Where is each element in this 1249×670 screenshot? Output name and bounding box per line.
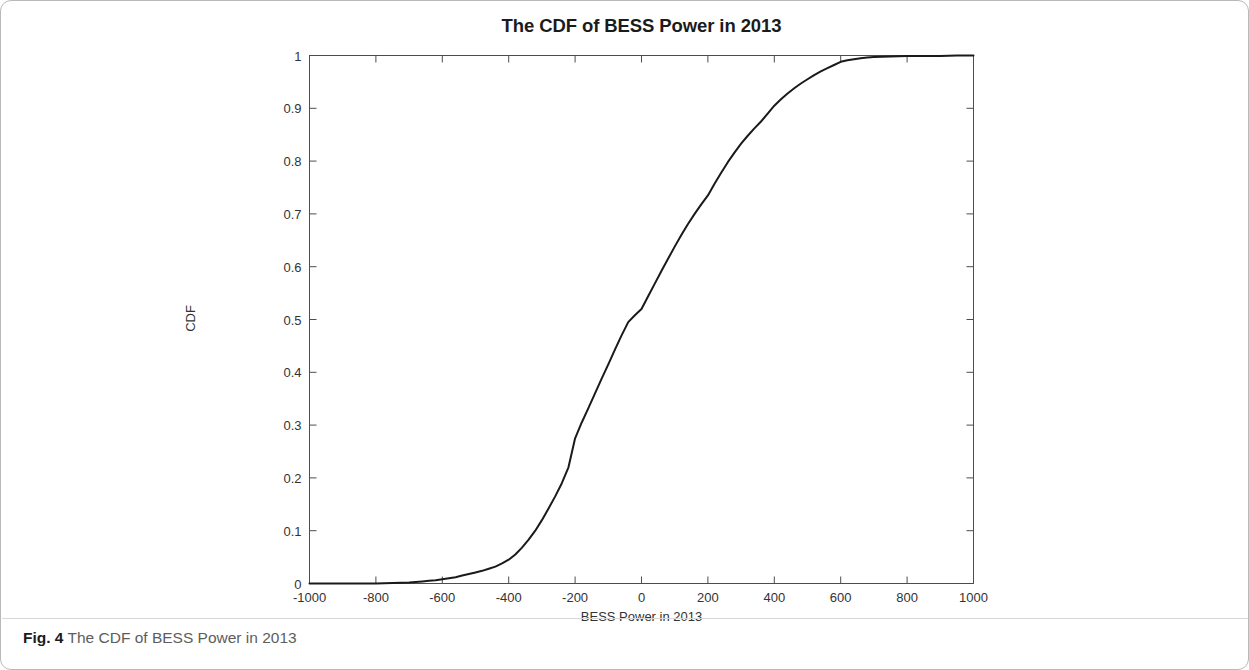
x-tick-label: -400 xyxy=(496,590,522,605)
y-tick-label: 0.7 xyxy=(244,206,302,221)
figure-caption: Fig. 4 The CDF of BESS Power in 2013 xyxy=(23,629,297,647)
x-tick-label: 0 xyxy=(638,590,645,605)
cdf-curve-line xyxy=(310,56,974,584)
y-tick-label: 0.4 xyxy=(244,365,302,380)
x-tick-label: -600 xyxy=(429,590,455,605)
y-tick-label: 0.2 xyxy=(244,470,302,485)
figure-caption-text: The CDF of BESS Power in 2013 xyxy=(68,629,297,646)
x-tick-label: 200 xyxy=(697,590,719,605)
x-tick-label: 1000 xyxy=(959,590,988,605)
y-tick-label: 0.5 xyxy=(244,312,302,327)
y-tick-label: 0.6 xyxy=(244,259,302,274)
y-tick-label: 0.9 xyxy=(244,101,302,116)
caption-separator xyxy=(2,618,1249,619)
y-tick-label: 0.8 xyxy=(244,154,302,169)
chart-plot-region: The CDF of BESS Power in 2013 00.10.20.3… xyxy=(1,1,1249,613)
x-tick-label: 600 xyxy=(830,590,852,605)
x-tick-label: 800 xyxy=(896,590,918,605)
y-tick-label: 0.3 xyxy=(244,418,302,433)
x-tick-label: -1000 xyxy=(293,590,326,605)
y-tick-label: 0.1 xyxy=(244,523,302,538)
x-tick-label: 400 xyxy=(763,590,785,605)
axes-frame xyxy=(310,56,974,584)
x-tick-label: -200 xyxy=(562,590,588,605)
x-axis-title: BESS Power in 2013 xyxy=(310,609,974,624)
y-axis-title: CDF xyxy=(182,238,197,398)
figure-caption-label: Fig. 4 xyxy=(23,629,63,646)
figure-card: The CDF of BESS Power in 2013 00.10.20.3… xyxy=(0,0,1249,670)
x-tick-label: -800 xyxy=(363,590,389,605)
tick-marks xyxy=(310,56,974,584)
y-tick-label: 1 xyxy=(244,48,302,63)
